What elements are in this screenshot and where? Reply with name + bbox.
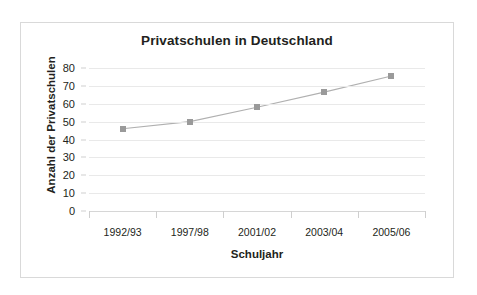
gridline xyxy=(89,122,425,123)
y-axis-tick-mark xyxy=(81,211,86,212)
y-axis-tick-label: 70 xyxy=(63,80,75,92)
x-axis-tick-label: 2005/06 xyxy=(372,226,410,238)
y-axis-tick-mark xyxy=(81,68,86,69)
gridline xyxy=(89,86,425,87)
gridline xyxy=(89,140,425,141)
x-axis-tick-label: 1992/93 xyxy=(104,226,142,238)
chart-title: Privatschulen in Deutschland xyxy=(21,33,453,48)
y-axis-tick-mark xyxy=(81,193,86,194)
data-point-marker xyxy=(187,119,193,125)
y-axis-tick-mark xyxy=(81,175,86,176)
y-axis-ticks: 80706050403020100 xyxy=(21,68,85,211)
y-axis-tick-mark xyxy=(81,139,86,140)
y-axis-tick-mark xyxy=(81,157,86,158)
y-axis-tick-label: 50 xyxy=(63,116,75,128)
x-axis-tick-mark xyxy=(291,211,292,218)
data-point-marker xyxy=(120,126,126,132)
y-axis-tick-label: 20 xyxy=(63,169,75,181)
data-point-marker xyxy=(321,89,327,95)
x-axis-title: Schuljahr xyxy=(89,248,425,260)
gridline xyxy=(89,193,425,194)
y-axis-tick-label: 60 xyxy=(63,98,75,110)
gridline xyxy=(89,175,425,176)
y-axis-tick-label: 30 xyxy=(63,151,75,163)
x-axis-tick-mark xyxy=(358,211,359,218)
x-axis-tick-label: 2001/02 xyxy=(238,226,276,238)
y-axis-tick-label: 40 xyxy=(63,134,75,146)
x-axis-tick-mark xyxy=(425,211,426,218)
y-axis-tick-label: 80 xyxy=(63,62,75,74)
y-axis-tick-mark xyxy=(81,103,86,104)
data-point-marker xyxy=(254,104,260,110)
gridline xyxy=(89,68,425,69)
y-axis-tick-mark xyxy=(81,85,86,86)
x-axis-tick-label: 2003/04 xyxy=(305,226,343,238)
x-axis-tick-mark xyxy=(223,211,224,218)
cropped-text-line xyxy=(40,0,43,6)
x-axis-line xyxy=(89,211,425,212)
gridline xyxy=(89,157,425,158)
x-axis-tick-label: 1997/98 xyxy=(171,226,209,238)
y-axis-tick-mark xyxy=(81,121,86,122)
cropped-text-strip xyxy=(0,0,477,11)
x-axis-tick-mark xyxy=(156,211,157,218)
chart-card: Privatschulen in Deutschland Anzahl der … xyxy=(20,22,454,278)
plot-area xyxy=(89,68,425,211)
data-point-marker xyxy=(388,73,394,79)
x-axis-tick-mark xyxy=(89,211,90,218)
y-axis-tick-label: 0 xyxy=(69,205,75,217)
y-axis-tick-label: 10 xyxy=(63,187,75,199)
